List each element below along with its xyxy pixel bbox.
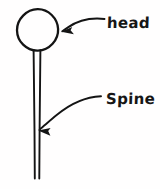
sketch-canvas: head Spine	[0, 0, 160, 189]
head-label: head	[107, 16, 150, 31]
spine-label: Spine	[106, 92, 156, 107]
spine-arrow	[38, 96, 101, 136]
spine-tube	[34, 50, 41, 179]
head-arrow	[61, 19, 104, 35]
head-circle	[17, 9, 58, 50]
